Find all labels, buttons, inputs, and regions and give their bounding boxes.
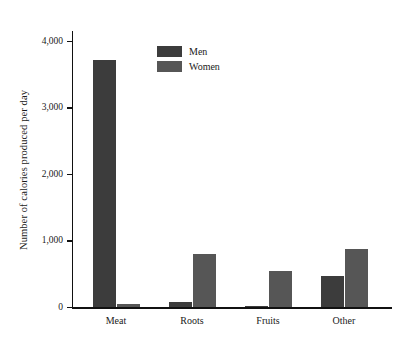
y-axis-title-text: Number of calories produced per day (18, 90, 29, 250)
legend-swatch (157, 61, 182, 72)
y-axis-line (72, 31, 73, 307)
y-axis-tick-mark (67, 107, 73, 108)
y-axis-tick-label: 0 (58, 302, 63, 312)
x-axis-label: Fruits (256, 315, 279, 326)
bar (117, 304, 140, 307)
legend-swatch (157, 46, 182, 57)
bar (93, 60, 116, 307)
y-axis-tick-mark (67, 307, 73, 308)
x-axis-label: Meat (106, 315, 127, 326)
bar (321, 276, 344, 307)
y-axis-tick-label: 4,000 (42, 36, 63, 46)
x-axis-label: Roots (180, 315, 203, 326)
y-axis-tick-mark (67, 41, 73, 42)
y-axis-tick-mark (67, 174, 73, 175)
legend-label: Women (189, 61, 220, 72)
y-axis-tick-label: 1,000 (42, 235, 63, 245)
legend-label: Men (189, 46, 207, 57)
y-axis-tick-label: 2,000 (42, 169, 63, 179)
bar (193, 254, 216, 307)
x-axis-label: Other (333, 315, 356, 326)
legend: MenWomen (157, 45, 247, 75)
bar (169, 302, 192, 307)
bar (269, 271, 292, 307)
bar (245, 306, 268, 308)
bar-chart: Number of calories produced per day 01,0… (0, 0, 400, 340)
bar (345, 249, 368, 307)
legend-item: Women (157, 60, 247, 73)
x-axis-line (72, 307, 392, 309)
y-axis-tick-mark (67, 240, 73, 241)
y-axis-tick-label: 3,000 (42, 102, 63, 112)
legend-item: Men (157, 45, 247, 58)
